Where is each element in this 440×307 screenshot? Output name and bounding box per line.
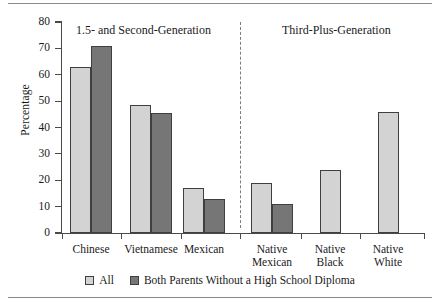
y-tick-label: 10 (16, 201, 50, 213)
bar-all-vietnamese (130, 105, 151, 233)
panel-title-right: Third-Plus-Generation (282, 23, 391, 38)
bar-all-native-mexican (251, 183, 272, 233)
y-tick-label: 70 (16, 42, 50, 54)
x-tick-mark (181, 234, 182, 239)
figure-bar-chart: Percentage 01020304050607080 1.5- and Se… (0, 0, 440, 307)
legend-item: Both Parents Without a High School Diplo… (130, 274, 355, 286)
panel-title-left: 1.5- and Second-Generation (76, 23, 211, 38)
x-tick-mark (301, 234, 302, 239)
y-tick-label: 40 (16, 122, 50, 134)
x-tick-mark (121, 234, 122, 239)
bar-no-diploma-vietnamese (151, 113, 172, 233)
bar-no-diploma-native-mexican (272, 204, 293, 233)
bar-all-chinese (70, 67, 91, 233)
y-tick-mark (55, 232, 61, 233)
y-axis-line (61, 21, 62, 234)
bar-all-native-white (378, 112, 399, 233)
y-tick-mark (55, 101, 61, 102)
bar-all-mexican (183, 188, 204, 233)
y-tick-mark (55, 206, 61, 207)
x-tick-mark (240, 234, 241, 239)
top-rule (8, 3, 432, 4)
y-tick-label: 80 (16, 16, 50, 28)
y-tick-label: 0 (16, 227, 50, 239)
x-tick-mark (424, 234, 425, 239)
y-tick-mark (55, 127, 61, 128)
y-tick-mark (55, 153, 61, 154)
x-axis-line (61, 233, 425, 234)
bar-no-diploma-chinese (91, 46, 112, 233)
y-tick-label: 50 (16, 95, 50, 107)
panel-divider (240, 22, 241, 228)
chart-legend: AllBoth Parents Without a High School Di… (0, 274, 440, 286)
x-category-label: Native White (343, 243, 433, 269)
legend-label: Both Parents Without a High School Diplo… (144, 274, 355, 286)
y-tick-mark (55, 21, 61, 22)
y-tick-label: 60 (16, 69, 50, 81)
bottom-rule (8, 297, 432, 298)
y-tick-label: 30 (16, 148, 50, 160)
x-tick-mark (360, 234, 361, 239)
bar-no-diploma-mexican (204, 199, 225, 233)
legend-label: All (99, 274, 114, 286)
y-tick-mark (55, 180, 61, 181)
legend-swatch-icon (130, 276, 139, 285)
legend-swatch-icon (85, 276, 94, 285)
y-tick-mark (55, 48, 61, 49)
x-tick-mark (62, 234, 63, 239)
bar-all-native-black (320, 170, 341, 233)
legend-item: All (85, 274, 114, 286)
y-tick-label: 20 (16, 174, 50, 186)
y-tick-mark (55, 74, 61, 75)
